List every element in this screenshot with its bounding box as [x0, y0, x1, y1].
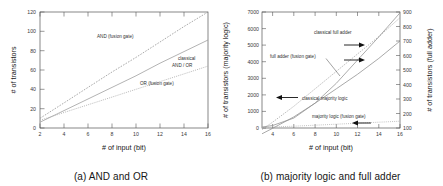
y-tick-b-right-800: 800: [403, 24, 412, 30]
caption-b: (b) majority logic and full adder: [218, 171, 443, 182]
x-axis-title-b: # of input (bit): [309, 143, 353, 152]
x-tick-b-10: 10: [333, 131, 339, 137]
full-adder-fusion-gate-label: full adder (fusion gate): [270, 54, 316, 59]
y-axis-title-a: # of transistors: [9, 46, 18, 94]
classical-full-adder-label: classical full adder: [314, 30, 352, 35]
panel-b: # of transistors (majority logic) # of t…: [218, 0, 443, 186]
x-tick-b-12: 12: [355, 131, 361, 137]
y-tick-b-left-4000: 4000: [247, 59, 259, 65]
x-tick-b-4: 4: [271, 131, 274, 137]
y-tick-b-left-6000: 6000: [247, 26, 259, 32]
y-tick-b-left-3000: 3000: [247, 75, 259, 81]
y-tick-a-20: 20: [30, 106, 36, 112]
x-tick-b-14: 14: [376, 131, 382, 137]
chart-b-svg: # of transistors (majority logic) # of t…: [218, 0, 443, 160]
x-tick-a-12: 12: [157, 131, 163, 137]
y-tick-b-left-0: 0: [256, 125, 259, 131]
y-tick-b-left-5000: 5000: [247, 42, 259, 48]
y-tick-b-right-600: 600: [403, 53, 412, 59]
x-tick-a-4: 4: [63, 131, 66, 137]
arrow-left-fusion-icon: [352, 120, 371, 125]
y-ticks-b-left: 0 1000 2000 3000 4000 5000 6000 7000: [247, 9, 266, 131]
arrow-right-upper-icon: [344, 42, 365, 47]
panel-a: # of transistors 0 20 40 60 80 100 120: [0, 0, 222, 186]
arrow-right-lower-icon: [344, 57, 365, 62]
y-tick-b-left-2000: 2000: [247, 92, 259, 98]
x-axis-title-a: # of input (bit): [102, 143, 146, 152]
y-tick-b-right-400: 400: [403, 82, 412, 88]
x-tick-a-6: 6: [87, 131, 90, 137]
y-ticks-b-right: 100 200 300 400 500 600 700 800 900: [396, 9, 412, 131]
x-tick-a-10: 10: [133, 131, 139, 137]
and-fusion-gate-label: AND (fusion gate): [97, 34, 134, 39]
arrow-left-majority-icon: [276, 95, 298, 100]
y-ticks-a: 0 20 40 60 80 100 120: [27, 9, 44, 131]
full-adder-leader-line: [326, 59, 340, 77]
classical-and-or-label-line1: classical: [178, 56, 195, 61]
x-tick-b-16: 16: [397, 131, 403, 137]
y-tick-b-right-900: 900: [403, 9, 412, 15]
y-tick-a-100: 100: [27, 28, 36, 34]
y-tick-b-left-7000: 7000: [247, 9, 259, 15]
y-tick-a-120: 120: [27, 9, 36, 15]
y-tick-b-right-700: 700: [403, 38, 412, 44]
curve-or-fusion-gate: [40, 66, 208, 120]
y-axis-title-b-right: # of transistors (full adder): [425, 28, 434, 112]
y-tick-a-0: 0: [33, 125, 36, 131]
x-ticks-a: 2 4 6 8 10 12 14 16: [39, 12, 211, 137]
y-tick-b-right-100: 100: [403, 125, 412, 131]
chart-a-svg: # of transistors 0 20 40 60 80 100 120: [0, 0, 222, 160]
y-tick-b-left-1000: 1000: [247, 108, 259, 114]
caption-a: (a) AND and OR: [0, 171, 222, 182]
x-tick-b-8: 8: [314, 131, 317, 137]
curve-classical-and-or: [40, 40, 208, 122]
classical-and-or-label-line2: AND / OR: [172, 63, 193, 68]
x-tick-b-6: 6: [292, 131, 295, 137]
x-tick-a-2: 2: [39, 131, 42, 137]
figure-container: # of transistors 0 20 40 60 80 100 120: [0, 0, 443, 186]
or-fusion-gate-label: OR (fusion gate): [140, 81, 174, 86]
y-tick-a-40: 40: [30, 86, 36, 92]
majority-logic-fusion-gate-label: majority logic (fusion gate): [312, 114, 366, 119]
y-axis-title-b-left: # of transistors (majority logic): [221, 22, 230, 118]
y-tick-b-right-300: 300: [403, 96, 412, 102]
y-tick-a-80: 80: [30, 48, 36, 54]
x-tick-a-16: 16: [205, 131, 211, 137]
y-tick-a-60: 60: [30, 67, 36, 73]
y-tick-b-right-500: 500: [403, 67, 412, 73]
x-tick-a-8: 8: [111, 131, 114, 137]
plot-frame-a: [40, 12, 208, 128]
x-tick-a-14: 14: [181, 131, 187, 137]
y-tick-b-right-200: 200: [403, 111, 412, 117]
classical-majority-logic-label: classical majority logic: [302, 96, 348, 101]
